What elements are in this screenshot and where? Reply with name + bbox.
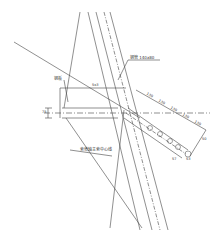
dim-end-3: 53 xyxy=(186,158,190,162)
drawing-lines xyxy=(0,0,218,240)
engineering-drawing: 钢管 140x80 钢板 索塔轴主索中心线 5x3 75 130 130 130… xyxy=(0,0,218,240)
label-centerline: 索塔轴主索中心线 xyxy=(80,148,112,152)
dim-end-2: 57 xyxy=(172,158,176,162)
dim-end-1: 50 xyxy=(202,138,206,142)
label-steel-plate: 钢板 xyxy=(54,77,62,81)
dim-left-vertical: 75 xyxy=(42,111,46,115)
label-steel-pipe: 钢管 140x80 xyxy=(130,56,154,60)
dim-top: 5x3 xyxy=(92,84,99,88)
